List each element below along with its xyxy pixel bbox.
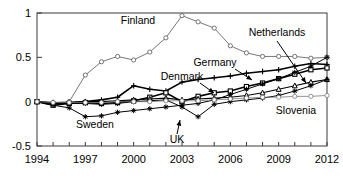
marker-circle: [325, 93, 329, 97]
annotation-arrowhead: [301, 77, 306, 83]
marker-circle: [212, 98, 216, 102]
data-point-marker: [244, 51, 248, 55]
data-point-marker: [309, 56, 313, 60]
marker-circle: [244, 96, 248, 100]
data-point-marker: [115, 100, 119, 104]
data-point-marker: [148, 100, 152, 104]
marker-circle: [115, 54, 119, 58]
data-point-marker: [260, 81, 265, 86]
data-point-marker: [196, 99, 200, 103]
marker-circle: [35, 100, 39, 104]
data-point-marker: [196, 20, 200, 24]
data-point-marker: [132, 58, 136, 62]
data-point-marker: [276, 67, 281, 72]
marker-circle: [99, 60, 103, 64]
series-label-netherlands: Netherlands: [249, 26, 306, 38]
marker-circle: [115, 100, 119, 104]
data-point-marker: [325, 66, 329, 70]
series-label-germany: Germany: [193, 56, 237, 68]
data-point-marker: [277, 95, 281, 99]
x-tick-label: 2012: [315, 153, 339, 165]
marker-circle: [67, 100, 71, 104]
data-point-marker: [276, 87, 281, 92]
data-point-marker: [115, 110, 120, 115]
data-point-marker: [180, 14, 184, 18]
annotation-arrowhead: [177, 120, 182, 126]
y-tick-label: 0: [25, 96, 31, 108]
data-point-marker: [308, 83, 313, 88]
marker-circle: [99, 100, 103, 104]
data-point-marker: [277, 54, 281, 58]
marker-circle: [244, 51, 248, 55]
data-point-marker: [260, 95, 264, 99]
marker-circle: [51, 100, 55, 104]
data-point-marker: [324, 55, 329, 60]
data-point-marker: [99, 100, 103, 104]
data-point-marker: [228, 44, 232, 48]
data-point-marker: [179, 104, 184, 109]
data-point-marker: [324, 77, 329, 82]
data-point-marker: [276, 76, 281, 81]
marker-triangle: [260, 90, 265, 95]
marker-circle: [212, 26, 216, 30]
marker-square: [325, 66, 329, 70]
marker-circle: [196, 20, 200, 24]
data-point-marker: [148, 50, 152, 54]
data-point-marker: [212, 102, 217, 107]
data-point-marker: [244, 96, 248, 100]
data-point-marker: [292, 88, 297, 93]
series-label-sweden: Sweden: [76, 118, 114, 130]
marker-circle: [180, 14, 184, 18]
data-point-marker: [228, 97, 232, 101]
data-point-marker: [83, 73, 87, 77]
data-point-marker: [292, 70, 297, 75]
data-point-marker: [67, 100, 71, 104]
data-point-marker: [212, 26, 216, 30]
y-axis-tick-labels: -0.500.51: [12, 7, 31, 152]
data-point-marker: [196, 114, 201, 119]
series-label-finland: Finland: [121, 14, 156, 26]
data-point-marker: [260, 54, 264, 58]
data-point-marker: [228, 92, 233, 97]
marker-circle: [132, 58, 136, 62]
data-point-marker: [325, 93, 329, 97]
data-point-marker: [228, 73, 233, 78]
x-tick-label: 2009: [266, 153, 290, 165]
chart-canvas: -0.500.51 1994199720002003200620092012 F…: [0, 0, 343, 178]
data-point-marker: [99, 60, 103, 64]
marker-circle: [293, 94, 297, 98]
marker-circle: [309, 56, 313, 60]
marker-triangle: [276, 87, 281, 92]
data-point-marker: [132, 100, 136, 104]
data-point-marker: [163, 104, 168, 109]
annotation-leader-line: [277, 41, 306, 83]
data-point-marker: [147, 87, 152, 92]
series-label-slovenia: Slovenia: [276, 104, 316, 116]
y-tick-label: 0.5: [16, 51, 31, 63]
x-tick-label: 1997: [73, 153, 97, 165]
marker-circle: [293, 54, 297, 58]
series-label-uk: UK: [170, 133, 185, 145]
marker-circle: [148, 50, 152, 54]
y-tick-label: 1: [25, 7, 31, 19]
marker-circle: [260, 95, 264, 99]
y-axis-ticks: [37, 13, 42, 146]
y-tick-label: -0.5: [12, 140, 31, 152]
data-point-marker: [51, 100, 55, 104]
marker-circle: [228, 44, 232, 48]
data-point-marker: [131, 108, 136, 113]
data-point-marker: [164, 36, 168, 40]
data-point-marker: [83, 100, 87, 104]
data-point-marker: [164, 99, 168, 103]
data-point-marker: [244, 87, 249, 92]
marker-square: [164, 91, 168, 95]
data-point-marker: [309, 94, 313, 98]
marker-circle: [260, 54, 264, 58]
marker-circle: [309, 94, 313, 98]
data-point-marker: [180, 99, 184, 103]
marker-circle: [148, 100, 152, 104]
marker-triangle: [292, 83, 297, 88]
x-tick-label: 2003: [170, 153, 194, 165]
x-tick-label: 1994: [25, 153, 49, 165]
marker-circle: [277, 95, 281, 99]
